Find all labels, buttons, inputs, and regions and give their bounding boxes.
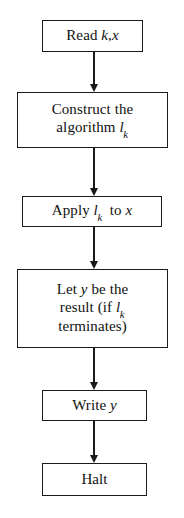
flowchart-node-write: Write y (42, 390, 147, 421)
label-line: result (if lk (57, 299, 129, 319)
arrow-head-icon (90, 84, 98, 92)
flowchart-arrow-construct-to-apply (88, 148, 100, 196)
label-line: Apply lk to x (52, 202, 132, 222)
flowchart-arrow-apply-to-let (88, 227, 100, 269)
label-line: Write y (72, 397, 117, 415)
arrow-head-icon (90, 261, 98, 269)
flowchart-node-read-label: Read k,x (63, 27, 121, 45)
arrow-stem (93, 52, 95, 84)
flowchart-node-construct: Construct thealgorithm lk (17, 92, 168, 148)
flowchart-node-halt: Halt (42, 463, 147, 496)
arrow-stem (93, 421, 95, 455)
flowchart-diagram: Read k,x Construct thealgorithm lk Apply… (0, 0, 184, 518)
flowchart-arrow-write-to-halt (88, 421, 100, 463)
flowchart-node-let-label: Let y be theresult (if lkterminates) (54, 281, 132, 336)
label-line: Let y be the (57, 281, 129, 299)
flowchart-arrow-read-to-construct (88, 52, 100, 92)
flowchart-node-apply-label: Apply lk to x (49, 202, 135, 222)
arrow-head-icon (90, 188, 98, 196)
label-line: Read k,x (66, 27, 118, 45)
arrow-head-icon (90, 382, 98, 390)
flowchart-arrow-let-to-write (88, 348, 100, 390)
arrow-stem (93, 348, 95, 382)
label-line: Construct the (52, 101, 134, 119)
flowchart-node-read: Read k,x (42, 20, 143, 52)
flowchart-node-let: Let y be theresult (if lkterminates) (17, 269, 168, 348)
flowchart-node-write-label: Write y (69, 397, 120, 415)
flowchart-node-construct-label: Construct thealgorithm lk (49, 101, 137, 138)
label-line: terminates) (57, 318, 129, 336)
arrow-stem (93, 227, 95, 261)
arrow-head-icon (90, 455, 98, 463)
label-line: algorithm lk (52, 119, 134, 139)
arrow-stem (93, 148, 95, 188)
label-line: Halt (81, 471, 107, 489)
flowchart-node-halt-label: Halt (78, 471, 110, 489)
flowchart-node-apply: Apply lk to x (22, 196, 162, 227)
